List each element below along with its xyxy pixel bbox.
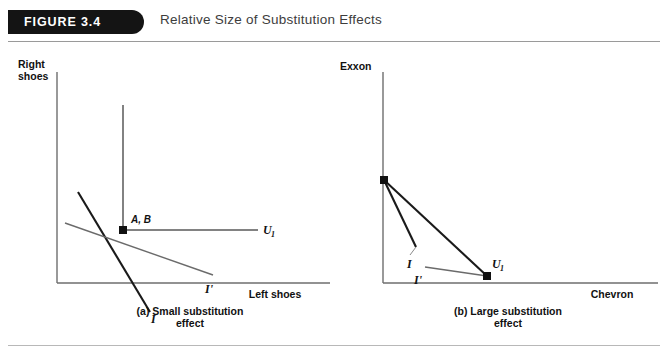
figure-svg: Right shoes A, B U 1 I I' Left shoes (a)…	[0, 40, 668, 340]
panel-b-label-i: I	[406, 257, 413, 271]
panel-b-indifference-curve-u1	[384, 180, 487, 276]
panel-a: Right shoes A, B U 1 I I' Left shoes (a)…	[18, 58, 330, 329]
panel-b-leader-i	[410, 247, 416, 255]
panel-b-caption-line1: (b) Large substitution	[454, 305, 562, 317]
panel-a-caption-line2: effect	[176, 317, 205, 329]
panel-b-x-axis-label: Chevron	[591, 288, 634, 300]
panel-a-x-axis-label: Left shoes	[249, 288, 302, 300]
panel-a-label-i-prime: I'	[204, 282, 214, 296]
panel-b-label-i-prime: I'	[413, 273, 423, 287]
panel-b-y-axis-label: Exxon	[340, 60, 372, 72]
panel-a-budget-line-i	[78, 192, 150, 312]
panel-b-budget-line-i	[384, 180, 416, 247]
panel-b-caption-line2: effect	[494, 317, 523, 329]
panel-b-corner-point-top	[380, 176, 388, 184]
figure-title: Relative Size of Substitution Effects	[160, 12, 382, 27]
panel-b-label-u1-subscript: 1	[500, 264, 504, 273]
panel-b-corner-point-bottom	[483, 272, 491, 280]
panel-a-optimum-point	[119, 226, 127, 234]
panel-a-y-axis-label-line1: Right	[18, 58, 45, 70]
figure-plot-area: Right shoes A, B U 1 I I' Left shoes (a)…	[0, 40, 668, 340]
panel-a-budget-line-i-prime	[65, 223, 213, 275]
panel-a-indifference-curve-u1	[123, 105, 258, 230]
panel-a-label-u1-subscript: 1	[271, 230, 275, 239]
panel-b: Exxon I I' U 1 Chevron (b) Large substit…	[340, 60, 658, 329]
footer-divider	[8, 345, 660, 346]
figure-number-tab: FIGURE 3.4	[8, 10, 144, 34]
figure-header: FIGURE 3.4 Relative Size of Substitution…	[0, 10, 668, 38]
panel-a-caption-line1: (a) Small substitution	[137, 305, 244, 317]
panel-a-y-axis-label-line2: shoes	[18, 70, 49, 82]
figure-number-label: FIGURE 3.4	[8, 15, 101, 29]
panel-a-point-label-ab: A, B	[130, 214, 151, 225]
